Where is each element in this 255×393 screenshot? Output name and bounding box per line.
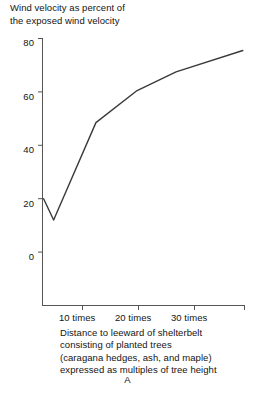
y-axis-ticks bbox=[38, 39, 43, 253]
x-tick-label-30: 30 times bbox=[171, 312, 207, 323]
y-tick-label-40: 40 bbox=[2, 144, 34, 155]
x-tick-label-10: 10 times bbox=[59, 312, 95, 323]
y-tick-label-80: 80 bbox=[2, 37, 34, 48]
panel-letter: A bbox=[0, 374, 255, 385]
y-tick-label-20: 20 bbox=[2, 198, 34, 209]
y-tick-label-60: 60 bbox=[2, 91, 34, 102]
x-axis-ticks bbox=[83, 306, 245, 311]
x-tick-label-20: 20 times bbox=[115, 312, 151, 323]
wind-velocity-curve bbox=[44, 51, 243, 221]
x-axis-caption: Distance to leeward of shelterbelt consi… bbox=[60, 327, 255, 376]
y-tick-label-0: 0 bbox=[2, 251, 34, 262]
figure-panel-a: Wind velocity as percent of the exposed … bbox=[0, 0, 255, 393]
